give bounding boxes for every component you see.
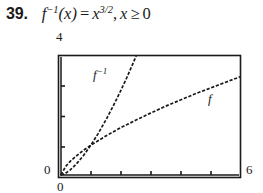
curve-label-f-inverse: f−1 <box>93 67 107 81</box>
domain-variable: x <box>120 4 127 23</box>
x-axis-max-label: 6 <box>246 163 253 176</box>
graph-figure: 4 0 0 6 f−1 f <box>0 30 263 193</box>
domain-bound: 0 <box>143 4 151 23</box>
curve-label-f-inverse-sup: −1 <box>97 66 108 76</box>
expression-variable: x <box>92 4 99 23</box>
plot-canvas <box>0 30 263 193</box>
curve-f <box>61 77 240 175</box>
problem-number: 39. <box>6 5 28 22</box>
expression-exponent: 3/2 <box>100 3 113 14</box>
inverse-exponent: −1 <box>46 3 58 14</box>
y-axis-zero-label: 0 <box>44 163 51 176</box>
problem-statement: 39. f−1(x)=x3/2,x≥0 <box>6 3 261 29</box>
comma: , <box>113 4 117 23</box>
x-axis-zero-label: 0 <box>57 180 64 193</box>
greater-equal-icon: ≥ <box>130 4 139 23</box>
curve-label-f: f <box>208 92 212 105</box>
function-argument: (x) <box>59 4 77 23</box>
exercise-figure-page: 39. f−1(x)=x3/2,x≥0 <box>0 0 263 193</box>
problem-expression: f−1(x)=x3/2,x≥0 <box>42 4 151 23</box>
plot-frame <box>59 56 241 178</box>
y-axis-max-label: 4 <box>56 30 63 43</box>
equals-sign: = <box>80 4 89 23</box>
